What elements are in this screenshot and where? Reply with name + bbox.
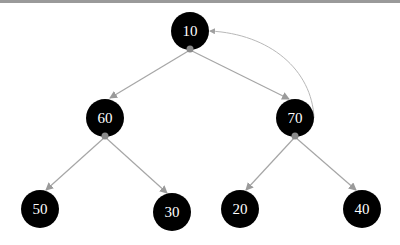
edge-10-70 [190,50,289,99]
node-label: 20 [233,201,248,217]
edge-10-60 [110,50,190,98]
edge-70-40 [295,137,356,190]
node-label: 60 [98,110,113,126]
port-dot [292,133,299,140]
port-dot [187,46,194,53]
node-label: 10 [183,23,198,39]
edge-60-30 [105,137,167,193]
node-10[interactable]: 10 [171,12,209,53]
tree-diagram: 10 60 70 50 30 20 [0,0,400,245]
edge-60-50 [46,137,105,190]
node-70[interactable]: 70 [276,99,314,140]
port-dot [102,133,109,140]
node-label: 50 [33,201,48,217]
node-60[interactable]: 60 [86,99,124,140]
nodes-group: 10 60 70 50 30 20 [21,12,381,231]
node-30[interactable]: 30 [153,193,191,231]
node-label: 70 [288,110,303,126]
edge-70-20 [246,137,295,190]
node-label: 30 [165,204,180,220]
node-50[interactable]: 50 [21,190,59,228]
node-20[interactable]: 20 [221,190,259,228]
node-40[interactable]: 40 [343,190,381,228]
node-label: 40 [355,201,370,217]
tree-diagram-canvas: 10 60 70 50 30 20 [0,0,400,245]
